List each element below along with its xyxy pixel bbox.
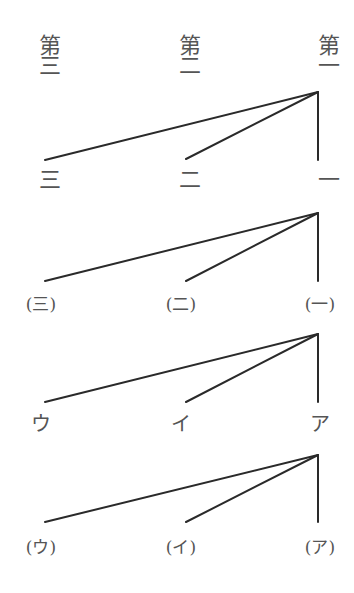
connector-group-2 (45, 213, 318, 281)
connector-line (186, 213, 318, 281)
label-paren-kanji-one: (一) (300, 294, 340, 314)
label-paren-katakana-a: (ア) (300, 537, 340, 557)
connector-line (186, 92, 318, 159)
heading-label-dai-san: 第三 (26, 34, 56, 74)
connector-line (45, 455, 318, 522)
connector-line (186, 455, 318, 522)
connector-line (45, 334, 318, 402)
label-katakana-a: ア (300, 414, 340, 434)
label-kanji-two: 二 (166, 168, 196, 188)
connector-line (45, 92, 318, 160)
label-katakana-i: イ (161, 414, 201, 434)
label-kanji-three: 三 (26, 168, 56, 188)
label-katakana-u: ウ (21, 414, 61, 434)
label-paren-kanji-three: (三) (21, 294, 61, 314)
connector-line (45, 213, 318, 281)
connector-group-4 (45, 455, 318, 522)
connector-group-1 (45, 92, 318, 160)
connector-group-3 (45, 334, 318, 402)
heading-label-dai-ni: 第二 (166, 34, 196, 74)
connector-line (186, 334, 318, 402)
numbering-hierarchy-diagram: 第三 第二 第一 三 二 一 (三) (二) (一) ウ イ ア (ウ) (イ)… (0, 0, 354, 593)
label-paren-kanji-two: (二) (161, 294, 201, 314)
heading-label-dai-ichi: 第一 (305, 34, 335, 74)
label-paren-katakana-i: (イ) (161, 537, 201, 557)
label-kanji-one: 一 (305, 168, 335, 188)
label-paren-katakana-u: (ウ) (21, 537, 61, 557)
